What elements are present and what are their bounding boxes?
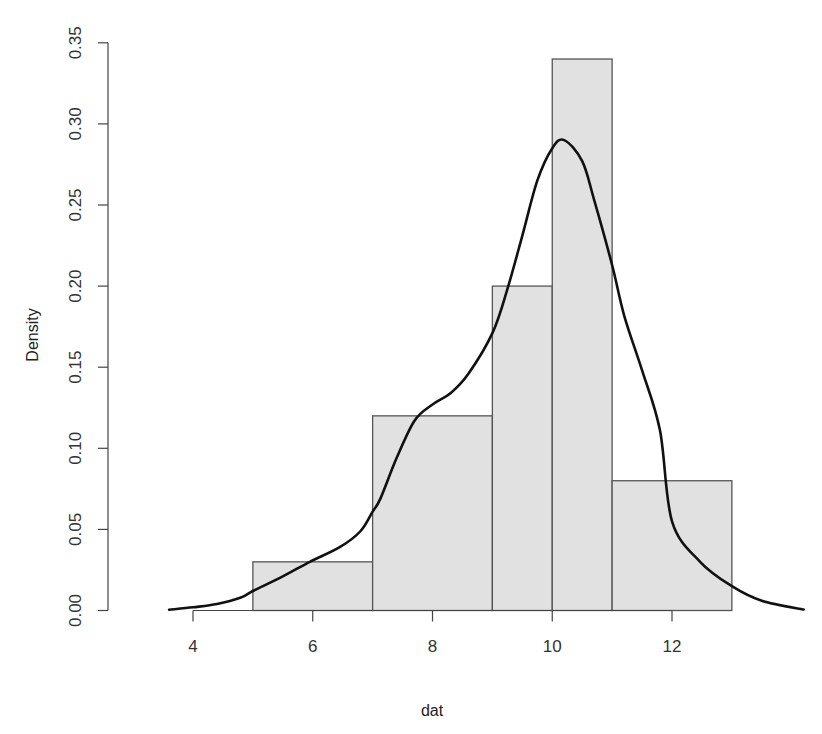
histogram-bar-1 xyxy=(373,416,493,611)
y-tick-label: 0.00 xyxy=(66,594,85,627)
y-axis-title: Density xyxy=(24,308,41,361)
y-tick-label: 0.35 xyxy=(66,26,85,59)
y-tick-label: 0.30 xyxy=(66,107,85,140)
x-tick-label: 4 xyxy=(188,637,197,656)
histogram-bar-2 xyxy=(492,286,552,610)
histogram-chart: 4681012 0.000.050.100.150.200.250.300.35… xyxy=(0,0,822,734)
x-tick-label: 10 xyxy=(543,637,562,656)
y-tick-label: 0.20 xyxy=(66,270,85,303)
histogram-bar-0 xyxy=(253,562,373,611)
x-axis: 4681012 xyxy=(188,611,681,656)
x-tick-label: 8 xyxy=(428,637,437,656)
x-axis-title: dat xyxy=(421,702,444,719)
y-axis: 0.000.050.100.150.200.250.300.35 xyxy=(66,26,108,627)
y-tick-label: 0.15 xyxy=(66,351,85,384)
y-tick-label: 0.10 xyxy=(66,432,85,465)
histogram-bar-4 xyxy=(612,481,732,611)
y-tick-label: 0.25 xyxy=(66,188,85,221)
x-tick-label: 12 xyxy=(663,637,682,656)
x-tick-label: 6 xyxy=(308,637,317,656)
histogram-bar-3 xyxy=(552,59,612,610)
y-tick-label: 0.05 xyxy=(66,513,85,546)
